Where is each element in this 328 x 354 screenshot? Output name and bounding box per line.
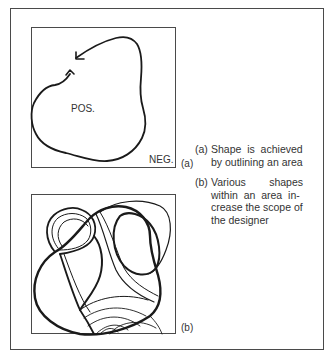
caption-b-line-3: crease the scope of — [211, 201, 319, 214]
figure-a-box — [32, 28, 176, 168]
figure-a-outline — [32, 37, 146, 161]
figure-a-tag: (a) — [181, 158, 193, 169]
figure-b-tag: (b) — [181, 322, 193, 333]
figure-b-shapes — [34, 201, 170, 334]
caption-a: (a) Shape is achieved by outlining an ar… — [195, 143, 320, 173]
caption-b-line-2: within an area in- — [211, 189, 319, 202]
negative-label: NEG. — [149, 154, 173, 165]
caption-b-line-1: Various shapes — [211, 176, 319, 189]
caption-b-tag: (b) — [195, 176, 208, 189]
caption-a-tag: (a) — [195, 143, 208, 156]
caption-a-line-2: by outlining an area — [211, 156, 319, 169]
caption-a-line-1: Shape is achieved — [211, 143, 319, 156]
caption-b-line-4: the designer — [211, 214, 319, 227]
positive-label: POS. — [71, 103, 95, 114]
caption-b: (b) Various shapes within an area in- cr… — [195, 176, 320, 236]
